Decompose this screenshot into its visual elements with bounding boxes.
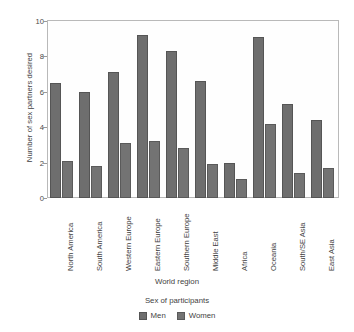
y-tick-label: 8 <box>4 52 44 61</box>
x-tick-label: Eastern Europe <box>153 218 162 271</box>
y-axis-title: Number of sex partners desired <box>25 18 34 198</box>
legend-label: Men <box>151 311 166 320</box>
y-tick-label: 4 <box>4 123 44 132</box>
bar-men-southern-europe <box>166 51 177 198</box>
legend-label: Women <box>189 311 216 320</box>
bar-men-middle-east <box>195 81 206 198</box>
bar-men-africa <box>224 163 235 198</box>
bar-men-eastern-europe <box>137 35 148 198</box>
bar-group <box>48 21 77 198</box>
x-tick-label: Southern Europe <box>182 214 191 271</box>
x-tick-label: Africa <box>240 252 249 271</box>
x-tick-label: Oceania <box>269 243 278 271</box>
x-tick-label: East Asia <box>327 239 336 271</box>
bar-men-oceania <box>253 37 264 198</box>
bar-women-north-america <box>62 161 73 198</box>
bar-women-africa <box>236 179 247 198</box>
y-tick-mark <box>43 198 47 199</box>
bar-women-middle-east <box>207 164 218 198</box>
bar-women-east-asia <box>323 168 334 198</box>
legend-swatch-icon <box>139 312 147 320</box>
bar-women-south-se-asia <box>294 173 305 198</box>
bar-men-north-america <box>50 83 61 198</box>
bar-group <box>251 21 280 198</box>
x-tick-label: Western Europe <box>124 216 133 271</box>
bar-group <box>164 21 193 198</box>
y-tick-label: 10 <box>4 17 44 26</box>
x-tick-label: South/SE Asia <box>298 222 307 271</box>
legend-item-men[interactable]: Men <box>139 311 166 320</box>
x-tick-label: Middle East <box>211 231 220 271</box>
bar-group <box>193 21 222 198</box>
bar-men-western-europe <box>108 72 119 198</box>
bar-group <box>309 21 338 198</box>
bar-chart-figure: Number of sex partners desired 0246810 N… <box>0 0 354 332</box>
y-tick-label: 6 <box>4 87 44 96</box>
bar-group <box>106 21 135 198</box>
bar-men-south-se-asia <box>282 104 293 198</box>
bar-group <box>77 21 106 198</box>
x-axis-title: World region <box>0 277 354 286</box>
bar-women-south-america <box>91 166 102 198</box>
legend-title: Sex of participants <box>0 296 354 305</box>
legend-item-women[interactable]: Women <box>177 311 216 320</box>
x-tick-label: North America <box>66 223 75 271</box>
legend: MenWomen <box>0 311 354 320</box>
bar-women-western-europe <box>120 143 131 198</box>
bar-group <box>135 21 164 198</box>
bar-group <box>280 21 309 198</box>
bar-men-south-america <box>79 92 90 198</box>
legend-swatch-icon <box>177 312 185 320</box>
y-tick-label: 2 <box>4 158 44 167</box>
bars-layer <box>48 21 338 198</box>
bar-men-east-asia <box>311 120 322 198</box>
bar-women-eastern-europe <box>149 141 160 198</box>
bar-women-southern-europe <box>178 148 189 198</box>
bar-group <box>222 21 251 198</box>
bar-women-oceania <box>265 124 276 198</box>
x-tick-label: South America <box>95 222 104 271</box>
y-tick-label: 0 <box>4 194 44 203</box>
